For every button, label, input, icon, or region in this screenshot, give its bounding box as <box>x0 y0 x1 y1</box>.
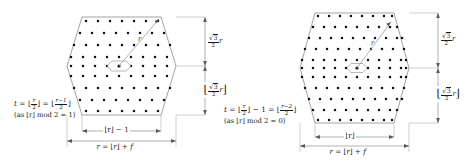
condition-odd: (as ⌊r⌋ mod 2 = 1) <box>14 112 75 119</box>
formula-odd-right-den: 2 <box>55 104 68 111</box>
panel-odd-case: t = ⌊r2⌋ = ⌊r−12⌋ (as ⌊r⌋ mod 2 = 1) ⌊r⌋… <box>0 0 236 163</box>
formula-even: t = ⌊r2⌋ − 1 = ⌊r−22⌋ <box>224 104 296 116</box>
dim-label-vertical-upper-even: √32r <box>440 31 456 47</box>
formula-even-right-num: r−2 <box>280 104 293 110</box>
radius-label-odd: r <box>138 36 141 43</box>
formula-odd-mid-num: r <box>31 98 37 104</box>
panel-odd-graphics <box>0 0 236 163</box>
formula-odd-eq2: = <box>43 99 49 108</box>
formula-even-eq2: = <box>268 105 274 114</box>
formula-even-mid-num: r <box>241 104 247 110</box>
formula-odd-eq1: = <box>19 99 25 108</box>
formula-odd-floor2: ⌊r−12⌋ <box>51 98 71 110</box>
dim-label-bottom-inner-odd: ⌊r⌋ − 1 <box>103 126 130 134</box>
dim-label-vertical-lower-odd: ⌊√32r⌋ <box>203 82 228 98</box>
lattice-hexagon-figure: t = ⌊r2⌋ = ⌊r−12⌋ (as ⌊r⌋ mod 2 = 1) ⌊r⌋… <box>0 0 473 163</box>
hexagon-outline-even <box>300 13 409 123</box>
extension-lines-right <box>300 13 438 152</box>
formula-even-lhs: t <box>224 105 227 114</box>
formula-even-right-den: 2 <box>280 110 293 117</box>
extension-lines-left <box>67 17 205 147</box>
formula-even-floor2: ⌊r−22⌋ <box>277 104 297 116</box>
formula-even-floor1: ⌊r2⌋ <box>238 104 250 116</box>
radius-label-even: r <box>371 40 374 47</box>
formula-odd-lhs: t <box>14 99 17 108</box>
lattice-dots-even <box>301 15 408 122</box>
dim-label-bottom-outer-odd: r = ⌊r⌋ + f <box>95 143 134 151</box>
formula-even-minus: − 1 <box>253 105 266 114</box>
dim-label-bottom-inner-even: ⌊r⌋ <box>344 132 356 140</box>
panel-even-case: t = ⌊r2⌋ − 1 = ⌊r−22⌋ (as ⌊r⌋ mod 2 = 0)… <box>236 0 472 163</box>
formula-even-mid-den: 2 <box>241 110 247 117</box>
condition-even: (as ⌊r⌋ mod 2 = 0) <box>224 118 285 125</box>
dim-label-vertical-upper-odd: √32r <box>207 33 223 49</box>
formula-odd-right-num: r−1 <box>55 98 68 104</box>
formula-odd-floor1: ⌊r2⌋ <box>28 98 40 110</box>
dim-label-vertical-lower-even: ⌊√32r⌋ <box>436 86 461 102</box>
formula-even-eq1: = <box>229 105 235 114</box>
formula-odd-mid-den: 2 <box>31 104 37 111</box>
formula-odd: t = ⌊r2⌋ = ⌊r−12⌋ <box>14 98 71 110</box>
dim-label-bottom-outer-even: r = ⌊r⌋ + f <box>328 148 367 156</box>
lattice-dots-odd <box>70 20 172 113</box>
